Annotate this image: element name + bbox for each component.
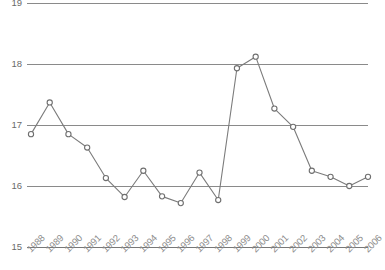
x-axis-tick-label: 2002	[287, 232, 309, 254]
x-axis-tick-label: 1994	[137, 232, 159, 254]
data-point[interactable]	[328, 174, 333, 179]
data-point[interactable]	[141, 168, 146, 173]
data-point[interactable]	[347, 183, 352, 188]
x-axis-tick-label: 2006	[362, 232, 384, 254]
line-chart: 1918171615 19881989199019911992199319941…	[0, 0, 385, 270]
chart-canvas: 1918171615 19881989199019911992199319941…	[0, 0, 385, 270]
data-point[interactable]	[122, 194, 127, 199]
x-axis-tick-label: 1993	[118, 232, 140, 254]
x-axis-tick-label: 1990	[62, 232, 84, 254]
data-point-markers	[28, 54, 370, 206]
data-point[interactable]	[28, 132, 33, 137]
x-axis-tick-label: 1997	[193, 232, 215, 254]
x-axis-tick-labels: 1988198919901991199219931994199519961997…	[25, 232, 384, 254]
data-point[interactable]	[103, 175, 108, 180]
data-series	[31, 57, 368, 203]
y-axis-tick-label: 17	[11, 119, 22, 130]
data-point[interactable]	[66, 132, 71, 137]
data-point[interactable]	[234, 66, 239, 71]
series-line	[31, 57, 368, 203]
data-point[interactable]	[47, 100, 52, 105]
data-point[interactable]	[253, 54, 258, 59]
x-axis-tick-label: 1995	[156, 232, 178, 254]
x-axis-tick-label: 2001	[268, 232, 290, 254]
x-axis-tick-label: 1998	[212, 232, 234, 254]
y-axis-tick-label: 18	[11, 58, 22, 69]
data-point[interactable]	[159, 194, 164, 199]
x-axis-tick-label: 1988	[25, 232, 47, 254]
y-axis-tick-labels: 1918171615	[11, 0, 22, 252]
x-axis-tick-label: 2004	[324, 232, 346, 254]
x-axis-tick-label: 2005	[343, 232, 365, 254]
x-axis-tick-label: 1999	[231, 232, 253, 254]
data-point[interactable]	[85, 145, 90, 150]
x-axis-tick-label: 2000	[249, 232, 271, 254]
x-axis-tick-label: 1996	[174, 232, 196, 254]
data-point[interactable]	[272, 106, 277, 111]
y-axis-tick-label: 19	[11, 0, 22, 8]
x-axis-tick-label: 1991	[81, 232, 103, 254]
data-point[interactable]	[197, 170, 202, 175]
data-point[interactable]	[216, 197, 221, 202]
x-axis-tick-label: 2003	[305, 232, 327, 254]
data-point[interactable]	[291, 124, 296, 129]
data-point[interactable]	[365, 174, 370, 179]
gridlines	[27, 4, 368, 248]
y-axis-tick-label: 15	[11, 241, 22, 252]
y-axis-tick-label: 16	[11, 180, 22, 191]
data-point[interactable]	[309, 168, 314, 173]
data-point[interactable]	[178, 200, 183, 205]
x-axis-tick-label: 1989	[43, 232, 65, 254]
x-axis-tick-label: 1992	[100, 232, 122, 254]
